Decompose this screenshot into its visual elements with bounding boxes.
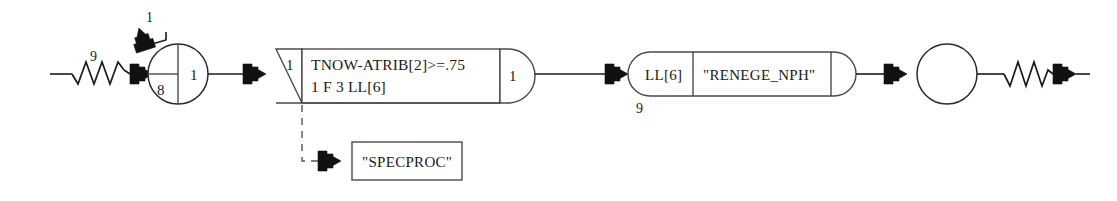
- specproc-dashed-line: [302, 105, 318, 161]
- diagram-canvas: 9 1 8 1: [0, 0, 1117, 201]
- renege-left-label: LL[6]: [645, 67, 682, 83]
- renege-block: LL[6] "RENEGE_NPH" 9: [628, 52, 856, 116]
- terminal-circle-outline: [917, 44, 977, 104]
- specproc-arrow-icon: [318, 151, 341, 171]
- renege-right-label: "RENEGE_NPH": [703, 67, 816, 83]
- top-branch-group: 1: [129, 10, 166, 53]
- specproc-label: "SPECPROC": [362, 154, 452, 170]
- decision-block: 1 TNOW-ATRIB[2]>=.75 1 F 3 LL[6] 1: [276, 49, 535, 103]
- split-circle-right-label: 1: [190, 67, 198, 83]
- split-to-decision-arrow-icon: [243, 64, 266, 84]
- source-zigzag-tail: [124, 70, 130, 74]
- terminal-circle-node: [917, 44, 977, 104]
- source-zigzag-label: 9: [90, 49, 97, 64]
- decision-wedge-label: 1: [286, 57, 294, 73]
- network-diagram: 9 1 8 1: [0, 0, 1117, 201]
- split-circle-lower-left-label: 8: [157, 82, 165, 98]
- decision-to-renege-arrow-icon: [605, 64, 628, 84]
- decision-cap-label: 1: [509, 68, 517, 84]
- decision-right-cap: [500, 49, 535, 103]
- decision-expression-line1: TNOW-ATRIB[2]>=.75: [311, 56, 465, 73]
- source-zigzag-icon: [72, 62, 124, 84]
- sink-branch-group: [977, 62, 1090, 86]
- source-branch-group: 9: [50, 49, 130, 84]
- top-branch-label: 1: [146, 10, 153, 25]
- specproc-box: "SPECPROC": [352, 142, 462, 180]
- renege-below-label: 9: [636, 101, 643, 116]
- sink-zigzag-icon: [1004, 62, 1053, 86]
- specproc-dashed-branch: [302, 105, 341, 171]
- sink-arrow-icon: [1053, 64, 1076, 84]
- split-circle-node: 8 1: [148, 44, 208, 104]
- decision-expression-line2: 1 F 3 LL[6]: [311, 78, 386, 95]
- top-branch-arrow-icon: [129, 25, 155, 53]
- renege-to-terminal-arrow-icon: [884, 64, 907, 84]
